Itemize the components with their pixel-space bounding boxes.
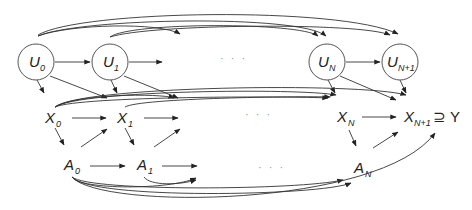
svg-text:A: A [63, 156, 74, 173]
top-arcs [38, 15, 398, 37]
edge-x0-xn-b [55, 97, 328, 107]
svg-text:1: 1 [128, 119, 133, 129]
svg-text:1: 1 [148, 166, 153, 176]
svg-text:0: 0 [56, 119, 61, 129]
edge-x0-a0 [55, 128, 64, 145]
edge-u1-x1 [111, 80, 117, 93]
svg-text:N: N [348, 118, 355, 128]
edge-a0-x1 [81, 129, 107, 147]
svg-text:U: U [387, 53, 398, 70]
edge-a1-dots [154, 129, 180, 147]
edge-un-xn [328, 80, 335, 93]
edge-u0-x1 [50, 76, 107, 98]
svg-text:1: 1 [114, 63, 119, 73]
svg-text:X: X [116, 109, 128, 126]
edge-u0-x0 [37, 80, 44, 93]
ellipsis-a-row: · · · [258, 161, 285, 173]
node-xn1: X N+1 ⊇ Y [403, 108, 460, 128]
node-xn: X N [336, 108, 355, 128]
edge-un1-xn1 [400, 80, 406, 93]
edge-xn-an [349, 130, 356, 146]
svg-text:X: X [44, 109, 56, 126]
svg-text:N: N [365, 169, 372, 179]
node-x0: X 0 [44, 109, 61, 129]
node-a0: A 0 [63, 156, 80, 176]
svg-text:N+1: N+1 [414, 118, 431, 128]
svg-text:N: N [329, 63, 336, 73]
node-a1: A 1 [136, 156, 153, 176]
svg-text:N+1: N+1 [398, 63, 415, 73]
node-x1: X 1 [116, 109, 133, 129]
ellipsis-x-row: · · · [245, 108, 272, 120]
node-an: A N [353, 159, 372, 179]
svg-text:X: X [336, 108, 348, 125]
svg-text:U: U [103, 53, 114, 70]
svg-text:A: A [353, 159, 364, 176]
svg-text:0: 0 [40, 63, 45, 73]
edge-x1-a1 [125, 128, 134, 145]
svg-text:⊇ Y: ⊇ Y [433, 108, 460, 125]
svg-text:0: 0 [75, 166, 80, 176]
x-arcs [55, 88, 406, 107]
svg-text:U: U [29, 53, 40, 70]
svg-text:A: A [136, 156, 147, 173]
svg-text:U: U [318, 53, 329, 70]
ellipsis-u-row: · · · [220, 52, 247, 64]
edge-un-xn1 [340, 76, 396, 100]
edge-u0-un1 [38, 15, 398, 35]
causal-diagram: U 0 U 1 U N U N+1 X 0 X 1 X N X N+1 ⊇ Y … [0, 0, 472, 210]
edge-an-xn1 [373, 132, 398, 148]
